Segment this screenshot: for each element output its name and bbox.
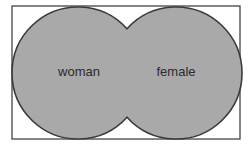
venn-diagram: woman female: [0, 0, 252, 147]
venn-canvas: [0, 0, 252, 147]
set-label-woman: woman: [58, 64, 100, 79]
set-label-female: female: [156, 64, 195, 79]
